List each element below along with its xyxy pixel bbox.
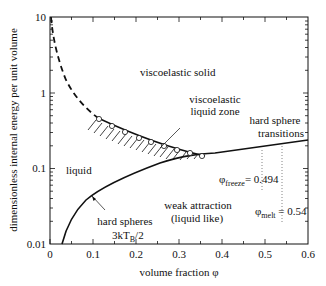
label-hs-trans-1: hard sphere bbox=[249, 114, 300, 126]
svg-text:0.2: 0.2 bbox=[129, 248, 143, 260]
label-liquid: liquid bbox=[66, 164, 92, 176]
label-phi-melt: φmelt = 0.54 bbox=[255, 205, 307, 220]
svg-text:0.4: 0.4 bbox=[215, 248, 229, 260]
x-tick-labels: 0 0.1 0.2 0.3 0.4 0.5 0.6 bbox=[47, 248, 315, 260]
arrow-head-icon bbox=[92, 196, 96, 201]
hatching bbox=[88, 120, 198, 160]
svg-text:0.3: 0.3 bbox=[172, 248, 186, 260]
y-tick-labels: 10 1 0.1 0.01 bbox=[27, 11, 47, 250]
label-hard-spheres-2: 3kTB/2 bbox=[112, 229, 144, 244]
data-markers bbox=[96, 116, 204, 158]
label-viscoelastic-solid: viscoelastic solid bbox=[140, 66, 216, 78]
y-axis-label: dimensionless internal energy per unit v… bbox=[7, 28, 19, 232]
label-weak-1: weak attraction bbox=[164, 199, 232, 211]
viscoelastic-solid-curve bbox=[51, 17, 98, 118]
label-phi-freeze: φfreeze= 0.494 bbox=[219, 173, 279, 188]
label-ve-liquid-1: viscoelastic bbox=[189, 93, 240, 105]
svg-text:0.5: 0.5 bbox=[258, 248, 272, 260]
label-hs-trans-2: transitions bbox=[258, 127, 304, 139]
x-axis-label: volume fraction φ bbox=[139, 266, 218, 278]
hard-sphere-curve bbox=[62, 140, 308, 244]
label-hard-spheres-1: hard spheres bbox=[97, 215, 152, 227]
chart: 0 0.1 0.2 0.3 0.4 0.5 0.6 10 1 0.1 0.01 … bbox=[0, 0, 326, 286]
annotations: viscoelastic solid viscoelastic liquid z… bbox=[66, 66, 307, 244]
label-weak-2: (liquid like) bbox=[171, 212, 224, 225]
svg-text:10: 10 bbox=[35, 11, 47, 23]
svg-text:0.1: 0.1 bbox=[86, 248, 100, 260]
svg-text:0.01: 0.01 bbox=[27, 238, 46, 250]
svg-text:0: 0 bbox=[47, 248, 53, 260]
label-ve-liquid-2: liquid zone bbox=[190, 105, 239, 117]
svg-text:0.6: 0.6 bbox=[301, 248, 315, 260]
svg-text:0.1: 0.1 bbox=[32, 162, 46, 174]
ve-liquid-pointer bbox=[160, 128, 180, 148]
svg-text:1: 1 bbox=[41, 87, 47, 99]
